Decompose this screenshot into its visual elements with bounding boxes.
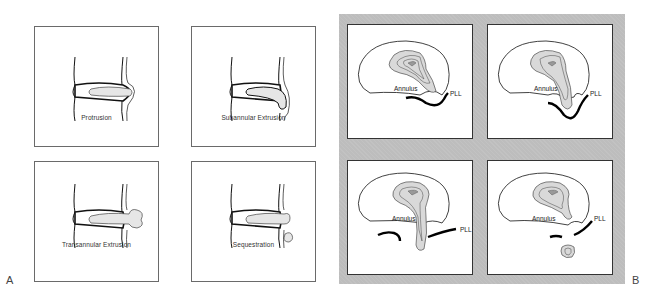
diagram-transannular-extrusion: Transannular Extrusion [34, 161, 159, 282]
pll-label-4: PLL [594, 215, 606, 222]
pll-label-3: PLL [460, 226, 472, 233]
diagram-subannular-extrusion: Subannular Extrusion [191, 26, 316, 147]
annulus-label-3: Annulus [392, 215, 416, 222]
caption-protrusion: Protrusion [35, 114, 158, 121]
protrusion-illustration [35, 27, 160, 148]
annulus-label-2: Annulus [534, 85, 558, 92]
diagram-b1-protrusion-axial: Annulus PLL [347, 24, 473, 139]
caption-sequestration: Sequestration [192, 241, 315, 248]
diagram-sequestration: Sequestration [191, 161, 316, 282]
caption-subannular-extrusion: Subannular Extrusion [192, 114, 315, 121]
transannular-extrusion-illustration [35, 162, 160, 283]
diagram-b3-transannular-axial: Annulus PLL [347, 160, 473, 275]
disc-axial-illustration-3: Annulus PLL [348, 161, 474, 276]
diagram-b4-sequestration-axial: Annulus PLL [487, 160, 613, 275]
annulus-label-1: Annulus [394, 85, 418, 92]
annulus-label-4: Annulus [532, 215, 556, 222]
diagram-protrusion: Protrusion [34, 26, 159, 147]
disc-axial-illustration-1: Annulus PLL [348, 25, 474, 140]
sequestration-illustration [192, 162, 317, 283]
diagram-b2-subannular-axial: Annulus PLL [487, 24, 613, 139]
panel-a-letter: A [6, 274, 13, 286]
disc-axial-illustration-4: Annulus PLL [488, 161, 614, 276]
panel-b-letter: B [632, 274, 639, 286]
pll-label-1: PLL [450, 90, 462, 97]
pll-label-2: PLL [590, 90, 602, 97]
caption-transannular-extrusion: Transannular Extrusion [35, 241, 158, 248]
subannular-extrusion-illustration [192, 27, 317, 148]
disc-axial-illustration-2: Annulus PLL [488, 25, 614, 140]
